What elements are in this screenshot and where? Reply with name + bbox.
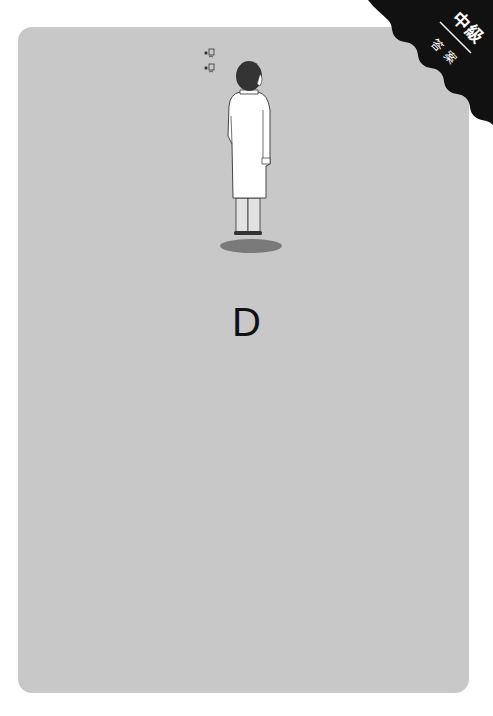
doctor-illustration <box>200 40 300 260</box>
answer-text: D <box>0 300 493 345</box>
floor-shadow <box>220 239 282 253</box>
level-badge: 中級 答案 <box>368 0 493 125</box>
sound-mark-icon <box>205 49 214 72</box>
